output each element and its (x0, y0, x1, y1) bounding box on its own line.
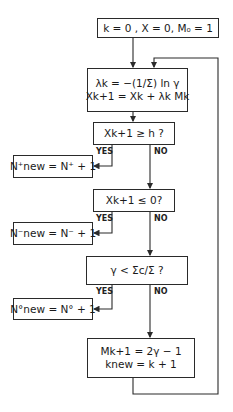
k-increment-formula: knew = k + 1 (105, 358, 177, 371)
scatter-box: Mk+1 = 2γ − 1 knew = k + 1 (87, 338, 195, 378)
test-zero-text: Xk+1 ≤ 0? (106, 194, 162, 207)
init-text: k = 0 , X = 0, M₀ = 1 (103, 22, 213, 35)
test-zero-box: Xk+1 ≤ 0? (93, 189, 175, 212)
x-update-formula: Xk+1 = Xk + λk Mk (86, 90, 190, 103)
test-sigma-box: γ < Σc/Σ ? (86, 256, 188, 285)
test-h-text: Xk+1 ≥ h ? (104, 127, 164, 140)
n-minus-box: N⁻new = N⁻ + 1 (13, 222, 93, 245)
n-plus-text: N⁺new = N⁺ + 1 (10, 160, 96, 173)
test-sigma-text: γ < Σc/Σ ? (110, 264, 163, 277)
n-zero-box: N°new = N° + 1 (13, 298, 93, 320)
yes-label-2: YES (96, 214, 113, 223)
yes-label-1: YES (96, 147, 113, 156)
mu-update-formula: Mk+1 = 2γ − 1 (100, 345, 181, 358)
update-box: λk = −(1/Σ) ln γ Xk+1 = Xk + λk Mk (87, 68, 188, 112)
no-label-2: NO (154, 214, 168, 223)
no-label-3: NO (154, 287, 168, 296)
test-h-box: Xk+1 ≥ h ? (93, 122, 175, 145)
n-minus-text: N⁻new = N⁻ + 1 (10, 227, 96, 240)
n-plus-box: N⁺new = N⁺ + 1 (13, 155, 93, 178)
yes-label-3: YES (96, 287, 113, 296)
no-label-1: NO (154, 147, 168, 156)
lambda-formula: λk = −(1/Σ) ln γ (95, 77, 179, 90)
init-box: k = 0 , X = 0, M₀ = 1 (97, 18, 219, 38)
n-zero-text: N°new = N° + 1 (10, 303, 96, 316)
